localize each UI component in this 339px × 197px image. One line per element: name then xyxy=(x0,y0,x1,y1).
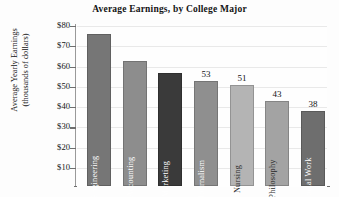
bar-marketing[interactable]: Marketing xyxy=(158,73,182,186)
bar-value-label: 53 xyxy=(202,69,211,79)
bar-rect[interactable]: Journalism xyxy=(194,81,218,186)
bar-social-work[interactable]: Social Work xyxy=(301,111,325,186)
y-axis-tick-label: $40 xyxy=(24,101,70,111)
bar-rect[interactable]: Nursing xyxy=(230,85,254,186)
bar-journalism[interactable]: Journalism xyxy=(194,81,218,186)
bar-rect[interactable]: Accounting xyxy=(123,61,147,187)
y-axis-tick-label: $70 xyxy=(24,40,70,50)
bar-nursing[interactable]: Nursing xyxy=(230,85,254,186)
bar-chart-figure: Average Earnings, by College Major Avera… xyxy=(0,0,339,197)
bar-value-label: 51 xyxy=(238,73,247,83)
bar-rect[interactable]: Marketing xyxy=(158,73,182,186)
gridline xyxy=(77,67,327,68)
bar-category-label: Accounting xyxy=(126,157,135,197)
y-axis-tick-mark xyxy=(70,26,76,27)
bar-value-label: 38 xyxy=(309,99,318,109)
bar-rect[interactable]: Philosophy xyxy=(265,101,289,186)
bar-category-label: Marketing xyxy=(161,161,170,197)
y-axis-tick-label: $20 xyxy=(24,142,70,152)
y-axis-tick-mark xyxy=(70,148,76,149)
y-axis-tick-label: $50 xyxy=(24,81,70,91)
bar-accounting[interactable]: Accounting xyxy=(123,61,147,187)
gridline xyxy=(77,46,327,47)
bar-engineering[interactable]: Engineering xyxy=(87,34,111,186)
y-axis-title-line-1: Average Yearly Earnings xyxy=(10,0,21,140)
bar-category-label: Social Work xyxy=(304,157,313,197)
bar-category-label: Philosophy xyxy=(268,159,277,197)
y-axis-tick-mark xyxy=(70,127,76,128)
y-axis-tick-mark xyxy=(70,67,76,68)
bar-rect[interactable]: Engineering xyxy=(87,34,111,186)
y-axis-tick-label: $30 xyxy=(24,121,70,131)
y-axis-tick-label: $60 xyxy=(24,61,70,71)
bar-value-label: 43 xyxy=(273,89,282,99)
y-axis-line xyxy=(75,24,76,187)
bar-category-label: Nursing xyxy=(233,165,242,193)
y-axis-tick-mark xyxy=(70,107,76,108)
y-axis-tick-label: $10 xyxy=(24,162,70,172)
y-axis-tick-labels: $80$70$60$50$40$30$20$10 xyxy=(20,0,70,197)
bar-category-label: Engineering xyxy=(90,156,99,197)
gridline xyxy=(77,26,327,27)
bar-category-label: Journalism xyxy=(197,160,206,197)
bar-philosophy[interactable]: Philosophy xyxy=(265,101,289,186)
y-axis-tick-mark xyxy=(70,46,76,47)
y-axis-tick-mark xyxy=(70,168,76,169)
y-axis-tick-label: $80 xyxy=(24,20,70,30)
y-axis-tick-mark xyxy=(70,87,76,88)
bar-rect[interactable]: Social Work xyxy=(301,111,325,186)
